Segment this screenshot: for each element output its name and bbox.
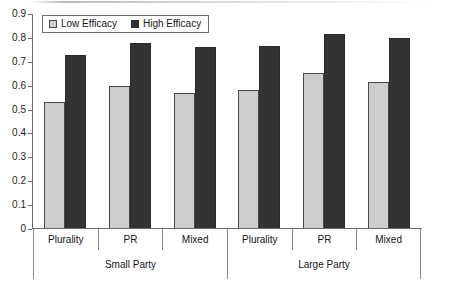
y-tick-label: 0.7 [12,57,26,67]
y-tick-mark [28,86,32,87]
y-tick-label: 0.5 [12,105,26,115]
y-tick-label: 0.1 [12,200,26,210]
bar-high-efficacy [324,34,345,229]
bar-low-efficacy [303,73,324,229]
category-label-cell: Plurality [227,229,292,250]
y-tick-mark [28,62,32,63]
bar-low-efficacy [368,82,389,229]
bar-low-efficacy [44,102,65,229]
y-tick-label: 0.2 [12,176,26,186]
y-tick-mark [28,205,32,206]
category-label-cell: PR [98,229,163,250]
y-tick-mark [28,14,32,15]
high-efficacy-swatch [131,20,139,28]
y-tick-label: 0.3 [12,152,26,162]
bar-high-efficacy [65,55,86,229]
group-label-cell: Small Party [33,250,227,279]
y-tick-label: 0.8 [12,33,26,43]
y-tick-label: 0.9 [12,9,26,19]
legend-label-high-efficacy: High Efficacy [143,19,201,29]
y-tick-mark [28,229,32,230]
x-axis-category-labels: PluralityPRMixedPluralityPRMixed [33,229,422,250]
category-label-cell: PR [292,229,357,250]
bar-high-efficacy [389,38,410,229]
y-axis-tick-labels: 00.10.20.30.40.50.60.70.80.9 [0,14,26,229]
category-label-cell: Mixed [356,229,421,250]
group-label-text: Large Party [298,259,350,270]
y-tick-mark [28,38,32,39]
low-efficacy-swatch [49,20,57,28]
y-tick-mark [28,157,32,158]
plot-area [33,14,421,229]
bar-high-efficacy [195,47,216,229]
group-label-cell: Large Party [227,250,421,279]
category-label-cell: Mixed [162,229,227,250]
bar-low-efficacy [109,86,130,229]
y-tick-label: 0.6 [12,81,26,91]
bar-low-efficacy [238,90,259,229]
legend-item-low-efficacy: Low Efficacy [49,19,117,29]
bar-low-efficacy [174,93,195,229]
category-label-cell: Plurality [33,229,98,250]
legend-item-high-efficacy: High Efficacy [131,19,201,29]
y-tick-mark [28,133,32,134]
bar-high-efficacy [259,46,280,229]
y-tick-mark [28,110,32,111]
bar-high-efficacy [130,43,151,229]
scan-artifact-line [30,1,430,3]
y-tick-label: 0.4 [12,128,26,138]
legend-label-low-efficacy: Low Efficacy [61,19,117,29]
x-axis-group-labels: Small PartyLarge Party [33,250,422,279]
group-label-text: Small Party [105,259,156,270]
y-tick-label: 0 [20,224,26,234]
chart-legend: Low Efficacy High Efficacy [42,15,209,33]
y-tick-mark [28,181,32,182]
bar-chart: 00.10.20.30.40.50.60.70.80.9 Low Efficac… [0,0,452,281]
